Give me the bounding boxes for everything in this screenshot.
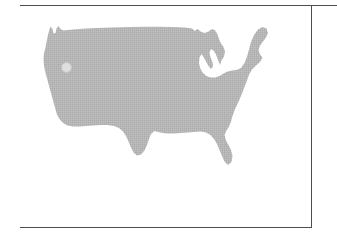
map-marker[interactable] xyxy=(61,62,72,73)
us-map xyxy=(20,6,311,227)
bottom-rule xyxy=(20,227,312,228)
figure-page xyxy=(0,0,337,234)
side-panel xyxy=(312,6,337,227)
vertical-divider-rule xyxy=(311,5,312,228)
map-figure-cell xyxy=(20,6,311,227)
us-map-final xyxy=(20,6,311,227)
